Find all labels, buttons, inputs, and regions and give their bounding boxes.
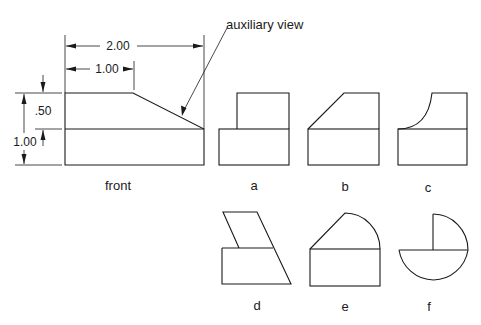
- arrow-icon: [41, 82, 46, 92]
- front-view: 2.00 1.00 1.00 .50: [13, 17, 304, 193]
- dimension-label-top-width: 1.00: [95, 62, 119, 76]
- dimension-label-overall-width: 2.00: [106, 39, 130, 53]
- leader-label: auxiliary view: [226, 17, 304, 32]
- auxiliary-view-leader: auxiliary view: [181, 17, 304, 116]
- option-f[interactable]: f: [399, 214, 468, 314]
- dimension-overall-height: 1.00: [13, 94, 37, 164]
- dimension-top-width: 1.00: [66, 62, 133, 76]
- option-c[interactable]: c: [398, 93, 467, 195]
- arrow-icon: [123, 67, 133, 72]
- option-b[interactable]: b: [308, 93, 379, 194]
- arrow-icon: [193, 44, 203, 49]
- option-label: f: [427, 299, 431, 314]
- arrow-icon: [41, 130, 46, 140]
- arrow-icon: [66, 67, 76, 72]
- option-label: d: [253, 298, 260, 313]
- option-label: b: [341, 179, 348, 194]
- option-label: c: [425, 180, 432, 195]
- option-a[interactable]: a: [219, 93, 289, 193]
- dimension-label-upper-height: .50: [35, 104, 52, 118]
- dimension-upper-height: .50: [35, 75, 52, 146]
- arrow-icon: [66, 44, 76, 49]
- front-view-caption: front: [105, 178, 131, 193]
- arrow-icon: [22, 94, 27, 104]
- option-label: e: [341, 299, 348, 314]
- option-label: a: [250, 178, 258, 193]
- arrow-icon: [22, 154, 27, 164]
- dimension-label-overall-height: 1.00: [13, 135, 37, 149]
- dimension-overall-width: 2.00: [66, 39, 203, 53]
- option-e[interactable]: e: [310, 213, 380, 314]
- option-d[interactable]: d: [222, 212, 291, 313]
- auxiliary-view-diagram: 2.00 1.00 1.00 .50: [0, 0, 481, 325]
